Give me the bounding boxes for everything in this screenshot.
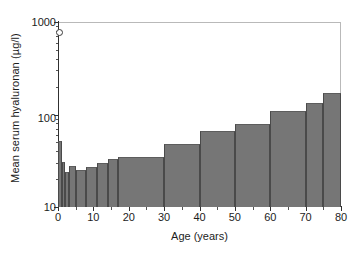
x-tick-minor	[217, 207, 218, 210]
x-tick-minor	[182, 207, 183, 210]
x-tick-label: 80	[326, 211, 356, 223]
y-tick-label-100: 100	[22, 113, 56, 124]
bar	[164, 144, 199, 207]
bar	[323, 93, 341, 207]
y-tick-minor	[56, 142, 59, 143]
y-tick-major	[54, 115, 58, 116]
x-tick-minor	[146, 207, 147, 210]
x-tick-label: 60	[255, 211, 285, 223]
bar	[69, 166, 76, 207]
bar	[108, 159, 119, 207]
x-tick-label: 50	[220, 211, 250, 223]
x-tick-label: 20	[114, 211, 144, 223]
x-tick-minor	[253, 207, 254, 210]
x-tick-label: 10	[78, 211, 108, 223]
y-tick-minor	[56, 129, 59, 130]
y-axis-tick-labels: 1000 100 10	[20, 0, 56, 220]
y-tick-minor	[56, 43, 59, 44]
y-tick-minor	[56, 87, 59, 88]
x-tick-minor	[288, 207, 289, 210]
axis-top-marker-icon	[56, 29, 63, 36]
bar	[306, 103, 324, 207]
y-tick-minor	[56, 163, 59, 164]
y-tick-major	[54, 22, 58, 23]
x-tick-label: 30	[149, 211, 179, 223]
bar	[270, 111, 305, 207]
x-axis-title: Age (years)	[58, 230, 341, 242]
bar	[235, 124, 270, 207]
bar	[118, 157, 164, 207]
y-tick-minor	[56, 59, 59, 60]
y-tick-minor	[56, 151, 59, 152]
y-tick-minor	[56, 119, 59, 120]
x-tick-minor	[111, 207, 112, 210]
y-tick-minor	[56, 50, 59, 51]
y-tick-minor	[56, 26, 59, 27]
y-tick-label-1000: 1000	[22, 17, 56, 28]
x-tick-label: 70	[291, 211, 321, 223]
plot-frame-top	[58, 22, 341, 23]
y-tick-minor	[56, 70, 59, 71]
bar	[76, 170, 87, 207]
x-tick-label: 0	[43, 211, 73, 223]
bar	[97, 163, 108, 207]
y-tick-minor	[56, 179, 59, 180]
y-tick-minor	[56, 135, 59, 136]
bar	[86, 167, 97, 207]
y-tick-minor	[56, 36, 59, 37]
x-tick-minor	[76, 207, 77, 210]
x-tick-label: 40	[185, 211, 215, 223]
x-tick-minor	[323, 207, 324, 210]
y-tick-minor	[56, 123, 59, 124]
chart-figure: Mean serum hyaluronan (µg/l) 1000 100 10…	[0, 0, 358, 260]
plot-area	[58, 22, 341, 207]
bar	[200, 131, 235, 207]
